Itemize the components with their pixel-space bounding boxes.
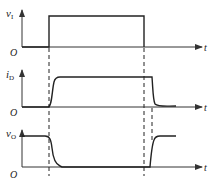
vi-t-label: t (204, 42, 207, 53)
id-t-label: t (204, 102, 207, 113)
panel-vi: vI O t (6, 7, 207, 58)
id-waveform (22, 77, 176, 107)
vo-t-label: t (204, 162, 207, 173)
vi-origin-label: O (10, 47, 17, 58)
vo-label: vO (6, 127, 16, 141)
waveform-canvas: vI O t iD O t vO O t (0, 0, 213, 187)
panel-vo: vO O t (6, 127, 207, 180)
id-label: iD (6, 68, 14, 82)
vo-waveform (22, 136, 176, 167)
vi-waveform (22, 16, 144, 47)
id-origin-label: O (10, 107, 17, 118)
panel-id: iD O t (6, 68, 207, 118)
vo-origin-label: O (10, 169, 17, 180)
vi-label: vI (6, 7, 14, 21)
timing-diagram: vI O t iD O t vO O t (0, 0, 213, 187)
